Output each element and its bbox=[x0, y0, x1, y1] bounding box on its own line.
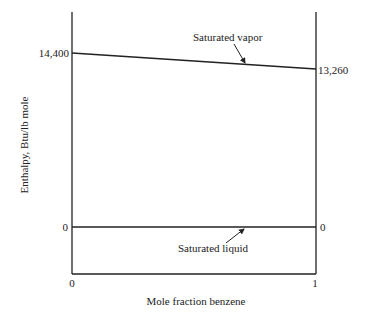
liquid-right-value: 0 bbox=[320, 221, 326, 233]
x-tick-1: 1 bbox=[312, 277, 318, 289]
saturated-vapor-annotation: Saturated vapor bbox=[193, 31, 263, 43]
vapor-left-value: 14,400 bbox=[39, 47, 70, 59]
x-axis-label: Mole fraction benzene bbox=[147, 295, 246, 307]
liquid-left-value: 0 bbox=[63, 221, 69, 233]
saturated-liquid-annotation: Saturated liquid bbox=[178, 242, 248, 254]
liquid-arrow bbox=[226, 229, 244, 243]
enthalpy-chart: 14,400 13,260 0 0 0 1 Mole fraction benz… bbox=[0, 0, 365, 319]
y-axis-label: Enthalpy, Btu/lb mole bbox=[18, 97, 30, 194]
vapor-arrow bbox=[234, 44, 245, 63]
x-tick-0: 0 bbox=[69, 277, 75, 289]
vapor-right-value: 13,260 bbox=[318, 64, 349, 76]
saturated-vapor-line bbox=[72, 53, 316, 69]
